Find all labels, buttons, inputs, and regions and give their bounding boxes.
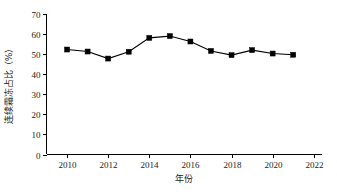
y-axis: 010203040506070 bbox=[32, 10, 47, 161]
x-tick-label: 2022 bbox=[306, 160, 324, 170]
x-axis-ticks bbox=[68, 155, 315, 159]
x-axis: 2010201220142016201820202022 bbox=[47, 155, 324, 170]
y-tick-label: 40 bbox=[32, 70, 42, 80]
x-axis-tick-labels: 2010201220142016201820202022 bbox=[59, 160, 324, 170]
data-point bbox=[188, 39, 193, 44]
x-tick-label: 2020 bbox=[265, 160, 284, 170]
data-point bbox=[106, 56, 111, 61]
x-axis-title: 年份 bbox=[175, 173, 193, 184]
data-point bbox=[270, 51, 275, 56]
series-line bbox=[67, 36, 293, 58]
x-tick-label: 2016 bbox=[182, 160, 201, 170]
data-point bbox=[147, 35, 152, 40]
x-tick-label: 2012 bbox=[100, 160, 118, 170]
data-point bbox=[250, 48, 255, 53]
y-tick-label: 20 bbox=[32, 110, 42, 120]
y-axis-title: 连续霜冻占比（%） bbox=[3, 44, 14, 125]
y-tick-label: 60 bbox=[32, 30, 42, 40]
line-chart: 010203040506070 201020122014201620182020… bbox=[0, 0, 337, 195]
data-point bbox=[167, 34, 172, 39]
y-axis-ticks bbox=[43, 15, 47, 156]
data-point bbox=[85, 49, 90, 54]
data-point bbox=[229, 53, 234, 58]
data-point bbox=[126, 49, 131, 54]
data-point bbox=[65, 47, 70, 52]
chart-container: 010203040506070 201020122014201620182020… bbox=[0, 0, 337, 195]
data-point bbox=[291, 52, 296, 57]
x-tick-label: 2010 bbox=[59, 160, 78, 170]
y-axis-tick-labels: 010203040506070 bbox=[32, 10, 42, 161]
y-tick-label: 0 bbox=[36, 151, 41, 161]
y-tick-label: 50 bbox=[32, 50, 42, 60]
data-point bbox=[208, 48, 213, 53]
x-tick-label: 2018 bbox=[224, 160, 243, 170]
y-tick-label: 10 bbox=[32, 130, 42, 140]
y-tick-label: 30 bbox=[32, 90, 42, 100]
y-tick-label: 70 bbox=[32, 10, 42, 20]
data-series bbox=[65, 34, 296, 61]
x-tick-label: 2014 bbox=[141, 160, 160, 170]
series-markers bbox=[65, 34, 296, 61]
